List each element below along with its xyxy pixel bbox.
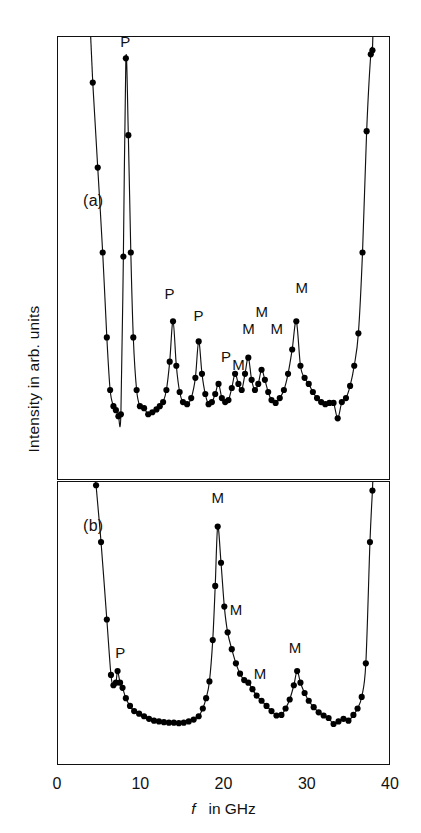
data-point [258, 367, 264, 373]
data-point [297, 363, 303, 369]
x-tick-label-20: 20 [215, 775, 233, 793]
x-tick-label-40: 40 [381, 775, 399, 793]
data-point [184, 401, 190, 407]
data-point [177, 389, 183, 395]
data-point [310, 389, 316, 395]
plot-panel-b [57, 481, 390, 765]
x-tick-label-0: 0 [53, 775, 62, 793]
data-point [210, 637, 216, 643]
data-point [199, 371, 205, 377]
data-point [277, 395, 283, 401]
data-point [221, 603, 227, 609]
data-point [355, 330, 361, 336]
data-point [364, 128, 370, 134]
peak-label-m: M [271, 320, 284, 335]
data-point [235, 381, 241, 387]
data-point [200, 705, 206, 711]
data-point [202, 391, 208, 397]
plot-panel-a [57, 36, 390, 480]
data-point [293, 318, 299, 324]
data-point [263, 703, 269, 709]
x-axis: 010203040 [57, 765, 390, 766]
x-tick-label-30: 30 [298, 775, 316, 793]
data-point [237, 671, 243, 677]
data-point [212, 391, 218, 397]
peak-label-m: M [230, 602, 243, 617]
data-point [306, 698, 312, 704]
data-point [302, 375, 308, 381]
data-point [229, 646, 235, 652]
data-point [291, 682, 297, 688]
data-point [209, 399, 215, 405]
data-point [265, 389, 271, 395]
data-point [206, 678, 212, 684]
data-point [294, 668, 300, 674]
data-point [113, 407, 119, 413]
panel-b-plot-area [58, 482, 389, 764]
data-point [359, 694, 365, 700]
data-point [273, 400, 279, 406]
data-point [212, 583, 218, 589]
figure-root: Intensity in arb. units (a) (b) PPPPMMMM… [0, 0, 421, 833]
data-point [118, 411, 124, 417]
data-point [345, 718, 351, 724]
data-point [287, 696, 293, 702]
data-point [249, 686, 255, 692]
data-point [311, 704, 317, 710]
data-point [215, 524, 221, 530]
y-axis-label: Intensity in arb. units [25, 249, 43, 509]
data-point [127, 703, 133, 709]
data-point [104, 616, 110, 622]
data-point [367, 539, 373, 545]
data-point [196, 338, 202, 344]
x-tick-label-10: 10 [131, 775, 149, 793]
data-point [128, 249, 134, 255]
data-point [196, 713, 202, 719]
data-point [335, 415, 341, 421]
data-point [134, 387, 140, 393]
data-point [188, 395, 194, 401]
data-point [330, 400, 336, 406]
peak-label-m: M [296, 280, 309, 295]
left-overflow-tail [90, 37, 93, 83]
data-point [95, 164, 101, 170]
peak-label-p: P [120, 34, 130, 49]
data-point [203, 695, 209, 701]
data-point [343, 395, 349, 401]
data-point [278, 712, 284, 718]
data-point [160, 399, 166, 405]
data-point [163, 387, 169, 393]
data-point [104, 334, 110, 340]
data-point [120, 253, 126, 259]
data-point [359, 249, 365, 255]
peak-label-m: M [232, 357, 245, 372]
data-point [351, 363, 357, 369]
peak-label-m: M [254, 665, 267, 680]
data-point [249, 377, 255, 383]
data-point [141, 405, 147, 411]
data-point [170, 318, 176, 324]
data-point [107, 387, 113, 393]
data-point [218, 560, 224, 566]
data-point [262, 377, 268, 383]
data-point [130, 334, 136, 340]
peak-label-m: M [211, 490, 224, 505]
data-point [192, 375, 198, 381]
data-point [258, 698, 264, 704]
x-axis-label-symbol: f [191, 800, 195, 817]
data-point [225, 397, 231, 403]
peak-label-m: M [242, 320, 255, 335]
x-axis-label: f in GHz [57, 800, 390, 818]
data-point [229, 385, 235, 391]
data-point [252, 387, 258, 393]
data-point [173, 363, 179, 369]
data-point [239, 387, 245, 393]
data-point [369, 487, 375, 493]
peak-label-m: M [289, 639, 302, 654]
data-point [93, 482, 99, 488]
data-point [289, 346, 295, 352]
data-point [285, 371, 291, 377]
data-point [369, 47, 375, 53]
data-point [297, 680, 303, 686]
data-point [90, 80, 96, 86]
